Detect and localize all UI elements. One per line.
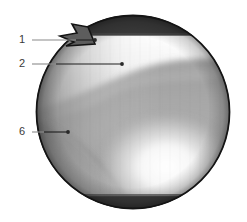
annotation-1-label: 1 <box>19 33 25 45</box>
annotation-6-leader-dot <box>66 130 70 134</box>
annotation-2-label: 2 <box>19 57 25 69</box>
annotation-6-label: 6 <box>19 125 25 137</box>
annotation-1-leader-dot <box>93 38 97 42</box>
figure-svg: 1 2 6 <box>0 0 247 222</box>
annotation-2-leader-dot <box>120 62 124 66</box>
figure-container: 1 2 6 <box>0 0 247 222</box>
